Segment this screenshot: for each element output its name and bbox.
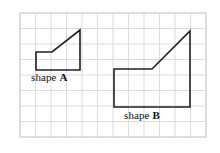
shape-a-label-letter: A [59,71,67,83]
shape-a-label-text: shape [31,71,59,83]
shape-b-label-letter: B [152,109,159,121]
geometry-figure: shape A shape B [0,0,220,153]
shape-b-label: shape B [124,109,160,121]
shape-b-outline [114,31,190,107]
shape-a-outline [36,30,80,70]
shape-a-label: shape A [31,71,67,83]
shape-b-label-text: shape [124,109,152,121]
